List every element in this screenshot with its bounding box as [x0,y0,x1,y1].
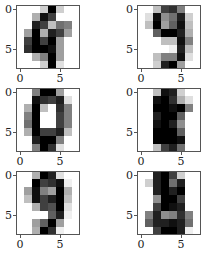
axes-frame [16,171,80,235]
y-tick [134,92,137,93]
y-tick [13,92,16,93]
y-tick [13,9,16,10]
y-tick-label: 0 [2,4,12,15]
x-tick-label: 0 [15,156,25,167]
y-tick-label: 5 [123,127,133,138]
x-tick-label: 5 [55,73,65,84]
y-tick-label: 0 [123,170,133,181]
y-tick-label: 5 [2,210,12,221]
y-tick-label: 0 [123,4,133,15]
x-tick-label: 5 [55,239,65,250]
x-tick-label: 0 [136,73,146,84]
axes-frame [137,88,201,152]
y-tick-label: 5 [123,210,133,221]
x-tick-label: 5 [176,239,186,250]
axes-frame [16,88,80,152]
y-tick-label: 0 [123,87,133,98]
axes-frame [137,171,201,235]
y-tick [134,9,137,10]
axes-frame [16,5,80,69]
digit-panel: 0505 [137,171,201,235]
y-tick [134,175,137,176]
digit-panel: 0505 [137,5,201,69]
x-tick-label: 5 [176,156,186,167]
y-tick-label: 0 [2,170,12,181]
x-tick-label: 0 [136,239,146,250]
x-tick-label: 5 [55,156,65,167]
y-tick-label: 5 [123,44,133,55]
digit-panel: 0505 [16,171,80,235]
axes-frame [137,5,201,69]
digit-panel: 0505 [137,88,201,152]
x-tick-label: 5 [176,73,186,84]
x-tick-label: 0 [136,156,146,167]
x-tick-label: 0 [15,239,25,250]
y-tick [134,49,137,50]
x-tick-label: 0 [15,73,25,84]
y-tick [13,175,16,176]
digit-panel: 0505 [16,88,80,152]
y-tick [13,49,16,50]
digit-panel: 0505 [16,5,80,69]
y-tick [134,132,137,133]
y-tick [13,132,16,133]
y-tick-label: 5 [2,127,12,138]
y-tick-label: 5 [2,44,12,55]
y-tick [134,215,137,216]
y-tick-label: 0 [2,87,12,98]
y-tick [13,215,16,216]
